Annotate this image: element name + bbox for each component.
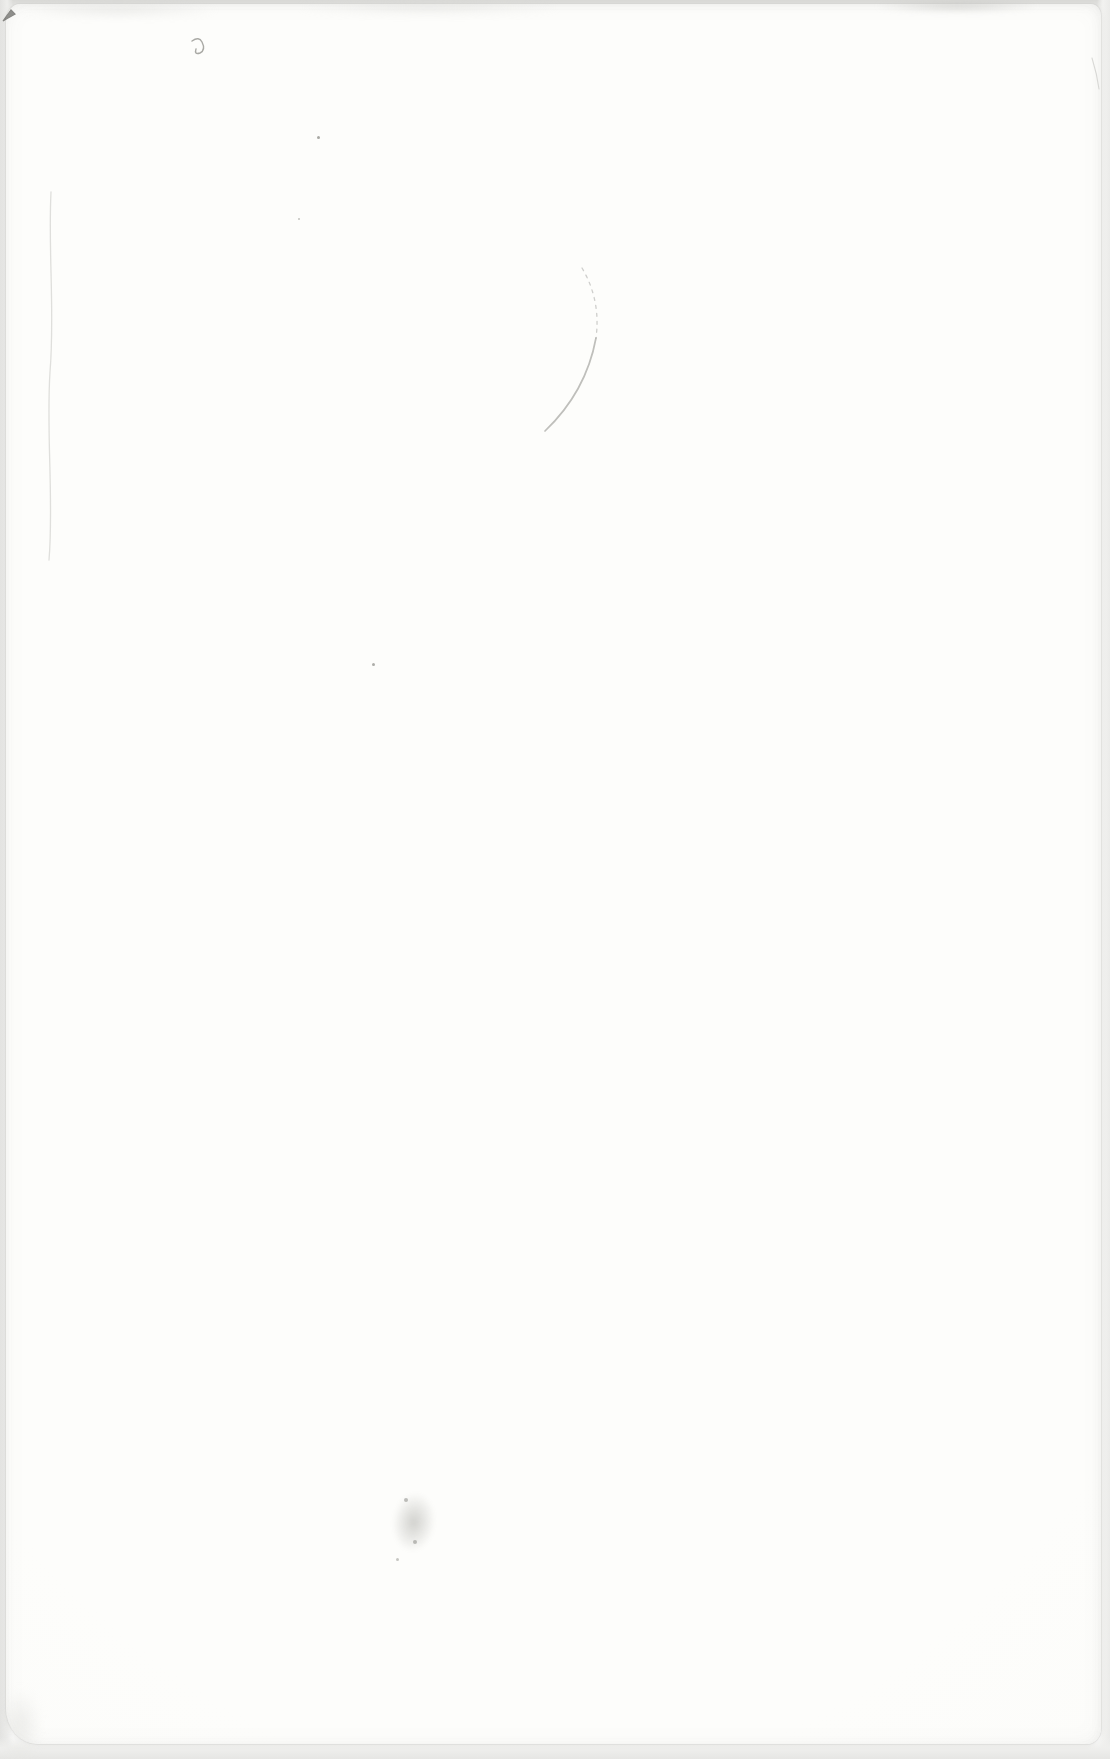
blank-book-page bbox=[6, 4, 1101, 1744]
scanned-page-frame bbox=[0, 0, 1110, 1759]
